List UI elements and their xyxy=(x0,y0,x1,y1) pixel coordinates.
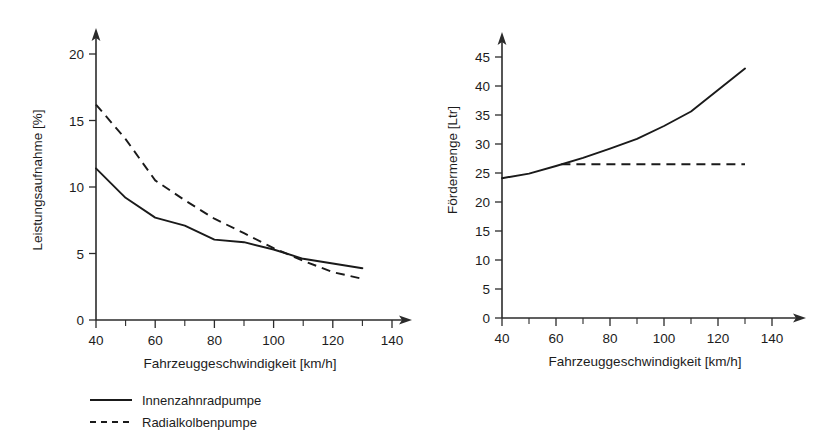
right-x-ticklabel-60: 60 xyxy=(548,331,563,346)
legend-label-innenzahnradpumpe: Innenzahnradpumpe xyxy=(142,393,261,408)
left-x-axis-title: Fahrzeuggeschwindigkeit [km/h] xyxy=(144,356,337,371)
left-x-ticklabel-140: 140 xyxy=(381,333,404,348)
right-y-ticklabel-30: 30 xyxy=(475,137,490,152)
left-x-ticklabel-80: 80 xyxy=(207,333,222,348)
legend-label-radialkolbenpumpe: Radialkolbenpumpe xyxy=(142,415,257,430)
right-y-ticklabel-0: 0 xyxy=(482,311,490,326)
chart-leistungsaufnahme: 0 5 10 15 20 40 60 80 100 120 140 Fahrze… xyxy=(30,28,412,371)
figure-root: 0 5 10 15 20 40 60 80 100 120 140 Fahrze… xyxy=(0,0,817,440)
legend: Innenzahnradpumpe Radialkolbenpumpe xyxy=(90,393,261,430)
left-y-ticklabel-15: 15 xyxy=(69,114,84,129)
left-x-ticklabel-120: 120 xyxy=(322,333,345,348)
right-y-ticklabel-35: 35 xyxy=(475,108,490,123)
left-x-ticklabel-60: 60 xyxy=(148,333,163,348)
right-x-ticklabel-80: 80 xyxy=(602,331,617,346)
right-x-axis-title: Fahrzeuggeschwindigkeit [km/h] xyxy=(549,354,742,369)
right-y-ticklabel-25: 25 xyxy=(475,166,490,181)
right-y-ticklabel-40: 40 xyxy=(475,79,490,94)
right-x-ticklabel-120: 120 xyxy=(707,331,730,346)
left-x-ticklabel-100: 100 xyxy=(262,333,285,348)
right-x-ticklabel-100: 100 xyxy=(653,331,676,346)
left-y-ticklabel-20: 20 xyxy=(69,47,84,62)
right-x-ticklabel-140: 140 xyxy=(761,331,784,346)
chart-foerdermenge: 0 5 10 15 20 25 30 35 40 45 40 60 80 100… xyxy=(445,32,806,369)
right-y-ticklabel-45: 45 xyxy=(475,50,490,65)
right-y-ticklabel-20: 20 xyxy=(475,195,490,210)
right-series-innenzahnradpumpe xyxy=(502,69,745,179)
left-series-radialkolbenpumpe xyxy=(96,105,362,279)
charts-svg: 0 5 10 15 20 40 60 80 100 120 140 Fahrze… xyxy=(0,0,817,440)
left-series-innenzahnradpumpe xyxy=(96,168,362,268)
left-y-ticklabel-5: 5 xyxy=(76,247,84,262)
right-y-axis-title: Fördermenge [Ltr] xyxy=(445,106,460,214)
left-y-ticklabel-0: 0 xyxy=(76,313,84,328)
left-x-ticklabel-40: 40 xyxy=(88,333,103,348)
left-y-axis-title: Leistungsaufnahme [%] xyxy=(30,109,45,250)
left-y-ticklabel-10: 10 xyxy=(69,180,84,195)
right-x-ticklabel-40: 40 xyxy=(494,331,509,346)
right-y-ticklabel-5: 5 xyxy=(482,282,490,297)
right-y-ticklabel-15: 15 xyxy=(475,224,490,239)
right-y-ticklabel-10: 10 xyxy=(475,253,490,268)
